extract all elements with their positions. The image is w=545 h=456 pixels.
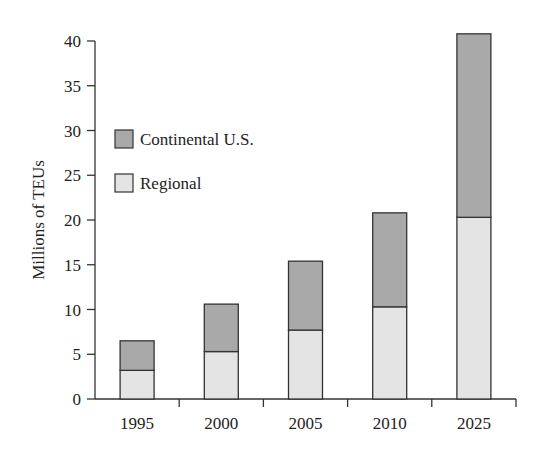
y-tick-label: 5 bbox=[73, 345, 82, 364]
y-axis: 0510152025303540 bbox=[64, 32, 95, 409]
y-tick-label: 0 bbox=[73, 390, 82, 409]
x-tick-label: 2005 bbox=[289, 414, 323, 433]
bars bbox=[120, 34, 491, 399]
legend: Continental U.S.Regional bbox=[115, 130, 254, 193]
bar-segment-regional bbox=[120, 370, 154, 399]
bar-segment-continental-u-s- bbox=[204, 304, 238, 351]
bar-segment-regional bbox=[204, 352, 238, 399]
x-tick-label: 2000 bbox=[204, 414, 238, 433]
x-tick-label: 2025 bbox=[457, 414, 491, 433]
legend-swatch bbox=[115, 174, 133, 192]
y-tick-label: 40 bbox=[64, 32, 81, 51]
y-tick-label: 10 bbox=[64, 301, 81, 320]
y-tick-label: 30 bbox=[64, 122, 81, 141]
bar-segment-continental-u-s- bbox=[457, 34, 491, 217]
y-tick-label: 35 bbox=[64, 77, 81, 96]
stacked-bar-chart: 0510152025303540 19952000200520102025 Co… bbox=[0, 0, 545, 456]
y-tick-label: 25 bbox=[64, 166, 81, 185]
legend-label: Continental U.S. bbox=[140, 130, 254, 149]
bar-segment-continental-u-s- bbox=[289, 261, 323, 330]
bar-segment-continental-u-s- bbox=[120, 341, 154, 371]
x-axis: 19952000200520102025 bbox=[95, 399, 516, 433]
bar-segment-continental-u-s- bbox=[373, 213, 407, 307]
legend-swatch bbox=[115, 130, 133, 148]
bar-segment-regional bbox=[373, 307, 407, 399]
y-tick-label: 20 bbox=[64, 211, 81, 230]
bar-segment-regional bbox=[457, 217, 491, 399]
legend-label: Regional bbox=[140, 174, 202, 193]
y-axis-label: Millions of TEUs bbox=[29, 160, 48, 280]
bar-segment-regional bbox=[289, 330, 323, 399]
x-tick-label: 2010 bbox=[373, 414, 407, 433]
y-tick-label: 15 bbox=[64, 256, 81, 275]
x-tick-label: 1995 bbox=[120, 414, 154, 433]
